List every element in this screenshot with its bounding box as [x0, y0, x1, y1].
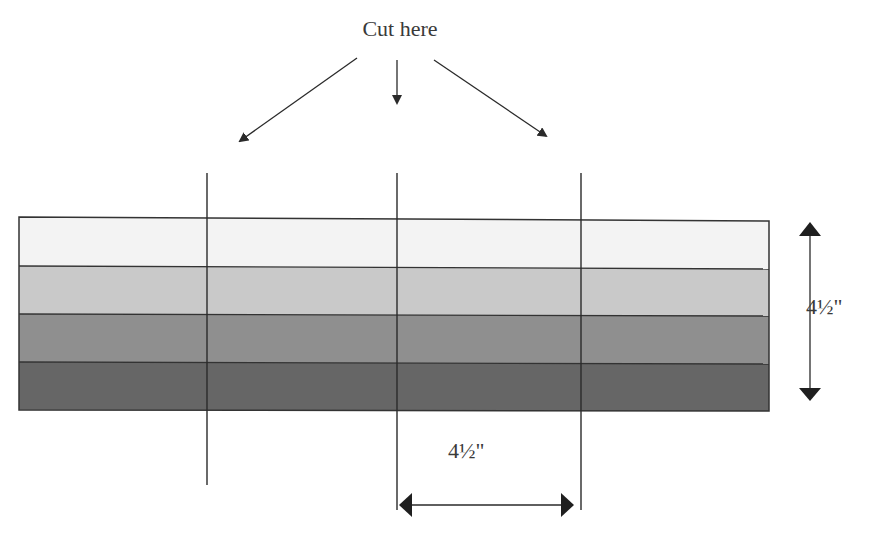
cut-here-label: Cut here: [340, 16, 460, 42]
arrow-down-icon: [799, 388, 821, 401]
band-2-light: [19, 266, 769, 316]
band-3-medium: [19, 314, 769, 364]
arrow-left-icon: [399, 493, 412, 517]
width-dimension-arrow: [399, 493, 574, 517]
height-dimension-label: 4½": [806, 294, 842, 320]
arrow-down-right-icon: [434, 60, 546, 136]
arrow-down-left-icon: [240, 58, 357, 141]
arrow-right-icon: [561, 493, 574, 517]
strip-cutting-diagram: [0, 0, 877, 537]
arrow-up-icon: [799, 222, 821, 236]
band-1-lightest: [19, 217, 769, 269]
width-dimension-label: 4½": [448, 438, 484, 464]
band-4-dark: [19, 362, 769, 411]
fabric-strip-set: [19, 217, 769, 411]
cut-here-arrows: [240, 58, 546, 141]
